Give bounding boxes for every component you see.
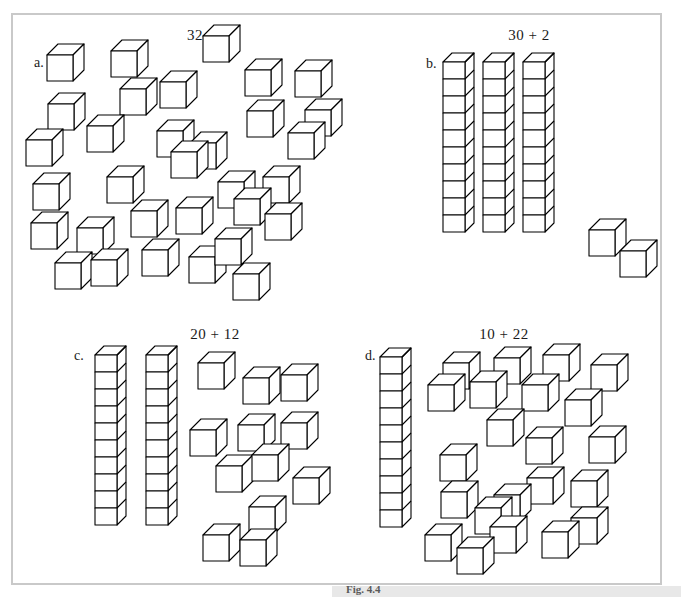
figure-caption-strip: Fig. 4.4 <box>332 586 681 597</box>
rod-segment-front-face <box>380 391 402 408</box>
cube-front-face <box>470 382 496 408</box>
unit-cube <box>527 467 564 504</box>
rod-segment-front-face <box>380 510 402 527</box>
ten-rod <box>380 348 411 527</box>
cube-front-face <box>565 400 591 426</box>
unit-cube <box>440 444 477 481</box>
rod-segment-front-face <box>380 459 402 476</box>
figure-root: 32 a. 30 + 2 b. 20 + 12 c. 10 + 22 d. Fi… <box>0 0 681 597</box>
cube-front-face <box>457 548 483 574</box>
cube-front-face <box>571 481 597 507</box>
unit-cube <box>571 470 608 507</box>
cube-front-face <box>487 420 513 446</box>
unit-cube <box>565 389 602 426</box>
cube-front-face <box>425 535 451 561</box>
cube-front-face <box>428 385 454 411</box>
unit-cube <box>428 374 465 411</box>
unit-cube <box>589 426 626 463</box>
cube-front-face <box>526 438 552 464</box>
rod-segment-front-face <box>380 357 402 374</box>
rod-segment-front-face <box>380 374 402 391</box>
panel-d-blocks <box>0 0 681 597</box>
rod-segment-front-face <box>380 442 402 459</box>
unit-cube <box>490 516 527 553</box>
cube-front-face <box>589 437 615 463</box>
cube-front-face <box>542 532 568 558</box>
unit-cube <box>522 374 559 411</box>
figure-caption: Fig. 4.4 <box>346 586 381 595</box>
cube-front-face <box>440 455 466 481</box>
rod-segment-front-face <box>380 476 402 493</box>
unit-cube <box>591 354 628 391</box>
unit-cube <box>441 481 478 518</box>
unit-cube <box>542 521 579 558</box>
cube-front-face <box>522 385 548 411</box>
unit-cube <box>457 537 494 574</box>
unit-cube <box>526 427 563 464</box>
rod-segment-front-face <box>380 425 402 442</box>
cube-front-face <box>441 492 467 518</box>
unit-cube <box>487 409 524 446</box>
rod-segment-front-face <box>380 493 402 510</box>
unit-cube <box>470 371 507 408</box>
cube-front-face <box>591 365 617 391</box>
rod-segment-front-face <box>380 408 402 425</box>
